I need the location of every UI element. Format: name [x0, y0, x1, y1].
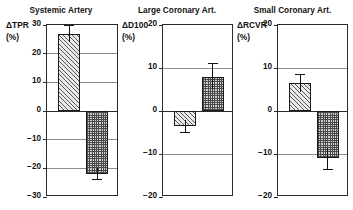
error-bar-cap	[92, 179, 102, 180]
y-axis-tick	[274, 111, 278, 112]
y-axis-unit: (%)	[6, 32, 19, 42]
error-bar-stem	[69, 25, 70, 42]
y-axis-unit: (%)	[122, 32, 135, 42]
y-axis-unit: (%)	[237, 32, 250, 42]
y-axis-tick-label: −20	[131, 191, 157, 200]
y-axis-tick-label: −30	[15, 191, 41, 200]
y-axis-tick	[43, 168, 47, 169]
y-axis-tick-label: 0	[15, 105, 41, 114]
error-bar-stem	[185, 120, 186, 133]
y-axis-tick-label: −20	[246, 191, 272, 200]
gridline	[163, 154, 232, 155]
panel-title: Small Coronary Art.	[232, 6, 353, 15]
y-axis-tick-label: 30	[15, 19, 41, 28]
plot-area	[162, 24, 233, 196]
bar	[58, 34, 80, 111]
y-axis-tick-label: 0	[246, 105, 272, 114]
y-axis-tick	[43, 197, 47, 198]
y-axis-tick	[43, 82, 47, 83]
y-axis-tick	[274, 197, 278, 198]
error-bar-stem	[97, 168, 98, 179]
y-axis-tick-label: 20	[246, 19, 272, 28]
y-axis-tick-label: 0	[131, 105, 157, 114]
y-axis-tick-label: −10	[246, 148, 272, 157]
y-axis-tick	[159, 197, 163, 198]
error-bar-cap	[295, 74, 305, 75]
y-axis-tick-label: 10	[246, 62, 272, 71]
bar	[86, 111, 108, 174]
y-axis-tick-label: 20	[15, 48, 41, 57]
chart-panel: Small Coronary Art.ΔRCVR(%)20100−10−20MX…	[232, 0, 353, 210]
y-axis-tick-label: 10	[131, 62, 157, 71]
y-axis-tick	[159, 111, 163, 112]
error-bar-stem	[327, 148, 328, 170]
error-bar-cap	[323, 169, 333, 170]
y-axis-tick	[274, 154, 278, 155]
chart-panel: Systemic ArteryΔTPR(%)3020100−10−20−30MX…	[0, 0, 122, 210]
y-axis-tick	[43, 25, 47, 26]
chart-panel: Large Coronary Art.ΔD100(%)20100−10−20MX…	[117, 0, 237, 210]
panel-title: Large Coronary Art.	[117, 6, 237, 15]
y-axis-tick	[43, 53, 47, 54]
y-axis-tick-label: −20	[15, 162, 41, 171]
plot-area	[277, 24, 348, 196]
gridline	[278, 68, 347, 69]
y-axis-tick	[43, 111, 47, 112]
y-axis-tick-label: 10	[15, 76, 41, 85]
y-axis-tick	[43, 139, 47, 140]
y-axis-tick	[159, 154, 163, 155]
y-axis-tick-label: −10	[15, 134, 41, 143]
y-axis-tick	[159, 68, 163, 69]
y-axis-tick	[274, 25, 278, 26]
gridline	[163, 68, 232, 69]
figure-canvas: Systemic ArteryΔTPR(%)3020100−10−20−30MX…	[0, 0, 353, 210]
y-axis-tick-label: 20	[131, 19, 157, 28]
error-bar-stem	[212, 64, 213, 90]
error-bar-stem	[300, 74, 301, 91]
plot-area	[46, 24, 118, 196]
error-bar-cap	[208, 63, 218, 64]
panel-title: Systemic Artery	[0, 6, 122, 15]
y-axis-tick	[159, 25, 163, 26]
y-axis-tick	[274, 68, 278, 69]
error-bar-cap	[64, 25, 74, 26]
y-axis-tick-label: −10	[131, 148, 157, 157]
error-bar-cap	[180, 132, 190, 133]
